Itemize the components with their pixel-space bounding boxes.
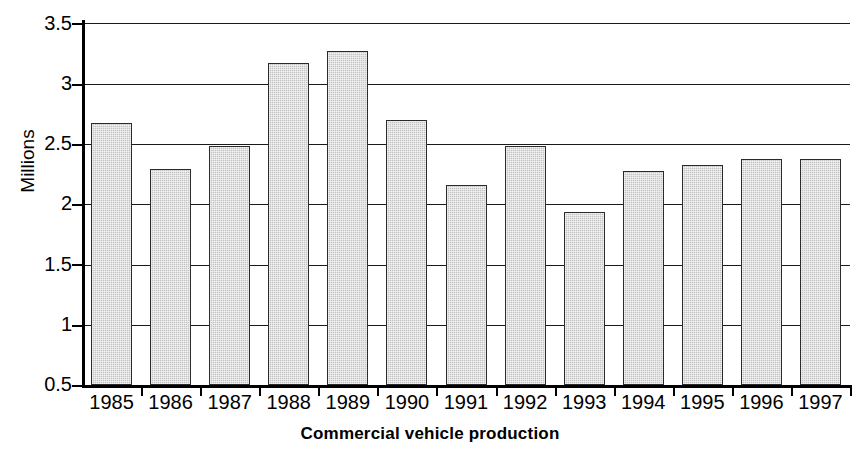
bar-1988 [268,63,309,385]
bar-1995 [682,165,723,385]
y-axis-line [82,20,85,388]
x-tick-label-1993: 1993 [555,390,614,414]
y-tick-label-2: 1.5 [14,254,72,274]
bar-1986 [150,169,191,385]
x-tick-label-1991: 1991 [436,390,495,414]
y-tick-label-4: 2.5 [14,133,72,153]
y-tick-label-6: 3.5 [14,13,72,33]
bar-1994 [623,171,664,385]
bar-1996 [741,159,782,385]
bar-1992 [505,146,546,385]
y-tick-label-3: 2 [14,193,72,213]
y-tick-label-0: 0.5 [14,374,72,394]
x-tick-label-1990: 1990 [377,390,436,414]
bar-1989 [327,51,368,385]
bar-1997 [800,159,841,385]
bar-series [82,23,850,385]
bar-chart: Millions 0.5 1 1.5 2 2.5 3 3.5 198519861… [0,0,860,451]
x-axis-tick-labels: 1985198619871988198919901991199219931994… [82,390,850,418]
x-tick-label-1989: 1989 [318,390,377,414]
x-tick-label-1995: 1995 [673,390,732,414]
bar-1990 [386,120,427,385]
x-axis-line [82,385,850,388]
chart-title: Commercial vehicle production [0,424,860,444]
x-tick-label-1996: 1996 [732,390,791,414]
x-tickmark-12 [850,385,852,396]
y-axis-tick-labels: 0.5 1 1.5 2 2.5 3 3.5 [10,0,72,451]
y-tick-label-5: 3 [14,73,72,93]
bar-1987 [209,146,250,385]
x-tick-label-1987: 1987 [200,390,259,414]
x-tick-label-1986: 1986 [141,390,200,414]
bar-1991 [446,185,487,385]
x-tick-label-1992: 1992 [496,390,555,414]
x-tick-label-1994: 1994 [614,390,673,414]
bar-1993 [564,212,605,385]
x-tick-label-1985: 1985 [82,390,141,414]
bar-1985 [91,123,132,385]
x-tick-label-1997: 1997 [791,390,850,414]
y-tick-label-1: 1 [14,314,72,334]
x-tick-label-1988: 1988 [259,390,318,414]
